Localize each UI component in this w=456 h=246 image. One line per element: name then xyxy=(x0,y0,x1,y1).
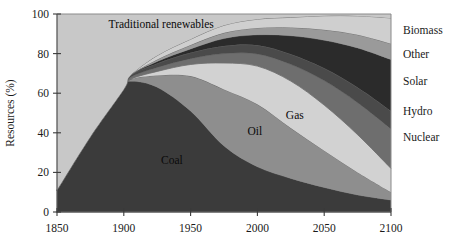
annotation-coal: Coal xyxy=(161,154,183,166)
annotation-traditional-renewables: Traditional renewables xyxy=(109,18,215,30)
y-tick-label: 40 xyxy=(38,127,50,139)
y-axis-title: Resources (%) xyxy=(4,79,17,147)
legend-label-other: Other xyxy=(403,48,429,60)
legend-label-biomass: Biomass xyxy=(403,24,443,36)
x-tick-label: 2000 xyxy=(246,222,269,234)
x-tick-label: 2100 xyxy=(380,222,403,234)
resources-stacked-area-chart: 020406080100185019001950200020502100Reso… xyxy=(0,0,456,246)
legend-label-hydro: Hydro xyxy=(403,105,433,118)
chart-svg: 020406080100185019001950200020502100Reso… xyxy=(0,0,456,246)
x-tick-label: 2050 xyxy=(313,222,336,234)
y-tick-label: 80 xyxy=(38,48,50,60)
series-bands xyxy=(57,14,391,212)
annotation-gas: Gas xyxy=(286,109,304,121)
legend: BiomassOtherSolarHydroNuclear xyxy=(403,24,443,143)
y-tick-label: 60 xyxy=(38,87,50,99)
annotation-oil: Oil xyxy=(247,125,262,137)
legend-label-nuclear: Nuclear xyxy=(403,131,440,143)
x-tick-label: 1950 xyxy=(179,222,202,234)
y-tick-label: 0 xyxy=(43,206,49,218)
legend-label-solar: Solar xyxy=(403,75,427,87)
x-tick-label: 1850 xyxy=(46,222,69,234)
y-tick-label: 20 xyxy=(38,166,50,178)
x-tick-label: 1900 xyxy=(112,222,135,234)
y-tick-label: 100 xyxy=(32,8,50,20)
